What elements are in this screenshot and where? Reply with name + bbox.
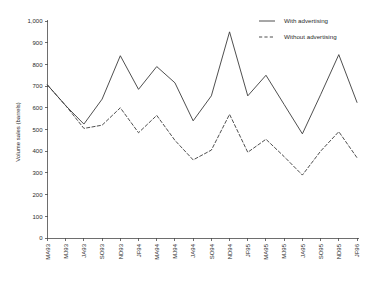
x-tick-label: JA95	[300, 243, 306, 257]
legend-label-without-advertising: Without advertising	[284, 33, 337, 40]
y-tick-label: 700	[32, 83, 43, 89]
x-axis: MA93MJ93JA93SO93ND93JF94MA94MJ94JA94SO94…	[45, 238, 361, 260]
y-tick-label: 600	[32, 105, 43, 111]
y-tick-label: 300	[32, 170, 43, 176]
x-tick-label: JF96	[354, 243, 360, 257]
x-tick-label: JA94	[190, 243, 196, 257]
series-line-without-advertising	[48, 85, 358, 175]
series-line-with-advertising	[48, 32, 358, 134]
x-tick-label: SO94	[209, 243, 215, 259]
x-tick-label: MA95	[263, 243, 269, 259]
x-tick-label: MA94	[154, 243, 160, 259]
x-tick-label: MJ95	[281, 243, 287, 258]
y-tick-label: 900	[32, 40, 43, 46]
y-tick-label: 500	[32, 127, 43, 133]
y-tick-label: 400	[32, 148, 43, 154]
y-tick-label: 0	[39, 235, 43, 241]
y-axis: 01002003004005006007008009001,000	[27, 18, 47, 241]
x-tick-label: JF94	[136, 243, 142, 257]
x-tick-label: JF95	[245, 243, 251, 257]
legend-label-with-advertising: With advertising	[284, 17, 329, 24]
series-layer	[48, 32, 358, 175]
x-tick-label: ND93	[118, 243, 124, 259]
x-tick-label: JA93	[81, 243, 87, 257]
y-tick-label: 1,000	[27, 18, 43, 24]
x-tick-label: ND95	[336, 243, 342, 259]
x-tick-label: MA93	[45, 243, 51, 259]
chart-figure: 01002003004005006007008009001,000 MA93MJ…	[0, 0, 370, 289]
x-tick-label: MJ93	[63, 243, 69, 258]
y-tick-label: 800	[32, 62, 43, 68]
y-axis-title: Volume sales (barrels)	[15, 102, 21, 162]
y-tick-label: 100	[32, 214, 43, 220]
line-chart: 01002003004005006007008009001,000 MA93MJ…	[0, 0, 370, 289]
chart-legend: With advertisingWithout advertising	[259, 17, 337, 40]
y-tick-label: 200	[32, 192, 43, 198]
x-tick-label: SO95	[318, 243, 324, 259]
x-tick-label: SO93	[99, 243, 105, 259]
x-tick-label: ND94	[227, 243, 233, 259]
x-tick-label: MJ94	[172, 243, 178, 258]
